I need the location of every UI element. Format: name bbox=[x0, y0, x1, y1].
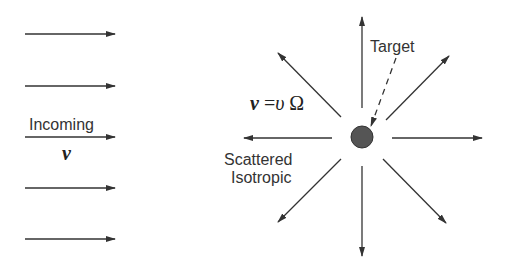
incoming-label: Incoming bbox=[29, 116, 94, 133]
isotropic-label: Isotropic bbox=[231, 169, 291, 186]
scattered-label: Scattered bbox=[224, 151, 292, 168]
target-pointer-dashed bbox=[371, 58, 396, 126]
incoming-velocity-symbol: v bbox=[62, 142, 72, 164]
scattered-arrow-down-right bbox=[383, 159, 446, 223]
incoming-beam bbox=[25, 34, 115, 239]
equation-rhs-omega: Ω bbox=[284, 92, 304, 114]
scattering-diagram: Incoming v Target v =υ Ω Scattered Isotr… bbox=[0, 0, 505, 266]
target-particle bbox=[351, 126, 373, 148]
scattered-velocity-equation: v =υ Ω bbox=[250, 92, 304, 114]
equation-equals: = bbox=[259, 92, 275, 114]
equation-rhs-speed: υ bbox=[275, 92, 284, 114]
scattered-arrow-up-right bbox=[386, 56, 449, 120]
target-label: Target bbox=[370, 38, 415, 55]
